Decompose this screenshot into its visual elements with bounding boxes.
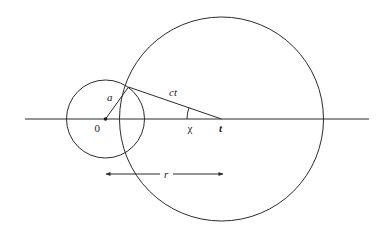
origin-point [104,117,108,121]
label-chi: χ [187,122,193,134]
label-a: a [107,91,113,103]
label-r: r [164,168,169,180]
label-ct: ct [169,86,178,98]
angle-chi-arc [187,108,189,120]
label-t: t [219,122,223,134]
sphere-geometry-diagram: 0 a ct χ t r [0,0,387,238]
label-origin: 0 [95,122,101,134]
